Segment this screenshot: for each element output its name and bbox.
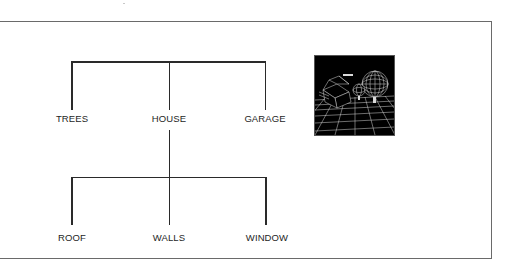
- frame-bottom-border: [0, 258, 492, 259]
- stray-dot: [123, 3, 125, 4]
- connector-trees: [71, 61, 73, 110]
- connector-walls: [169, 177, 171, 225]
- node-roof: ROOF: [58, 232, 86, 243]
- node-trees: TREES: [56, 113, 88, 124]
- node-walls: WALLS: [153, 232, 185, 243]
- connector-house-stem: [169, 130, 171, 177]
- connector-garage: [265, 61, 267, 110]
- connector-house: [169, 61, 171, 110]
- wireframe-scene-image: [315, 56, 394, 135]
- frame-top-border: [0, 21, 492, 22]
- connector-window: [265, 177, 267, 225]
- node-garage: GARAGE: [244, 113, 285, 124]
- node-window: WINDOW: [246, 232, 288, 243]
- wireframe-scene-thumbnail: [314, 55, 395, 136]
- node-house: HOUSE: [152, 113, 186, 124]
- connector-roof: [71, 177, 73, 225]
- frame-right-border: [491, 21, 492, 259]
